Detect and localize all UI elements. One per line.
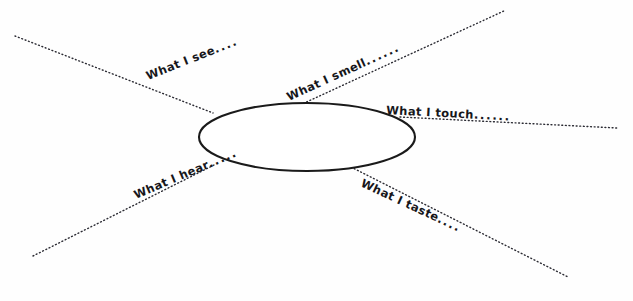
- ray-label-touch: What I touch......: [386, 103, 511, 124]
- ray-line-smell: [287, 10, 506, 111]
- ray-line-see: [15, 36, 213, 113]
- ray-label-see: What I see....: [144, 34, 240, 83]
- ray-label-smell: What I smell......: [284, 40, 401, 104]
- ray-label-hear: What I hear.....: [132, 145, 240, 201]
- worksheet-canvas: What I see.... What I smell...... What I…: [0, 0, 633, 301]
- five-senses-worksheet: What I see.... What I smell...... What I…: [0, 0, 633, 301]
- ray-label-taste: What I taste....: [359, 176, 464, 235]
